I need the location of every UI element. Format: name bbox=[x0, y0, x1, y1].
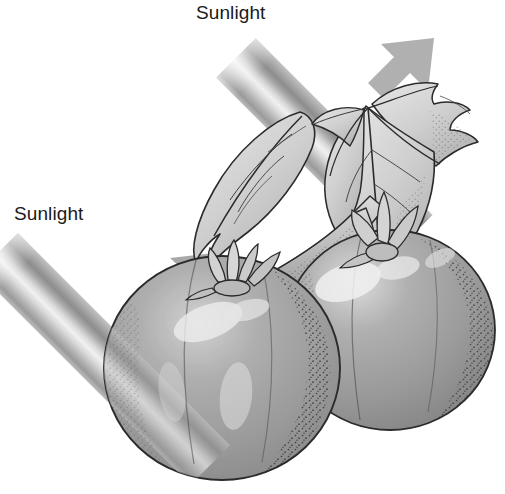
leaf-left bbox=[194, 112, 315, 268]
illustration-svg bbox=[0, 0, 505, 494]
sunlight-label-left: Sunlight bbox=[14, 203, 83, 225]
sunlight-label-top: Sunlight bbox=[196, 2, 265, 24]
illustration-canvas: Sunlight Sunlight bbox=[0, 0, 505, 494]
